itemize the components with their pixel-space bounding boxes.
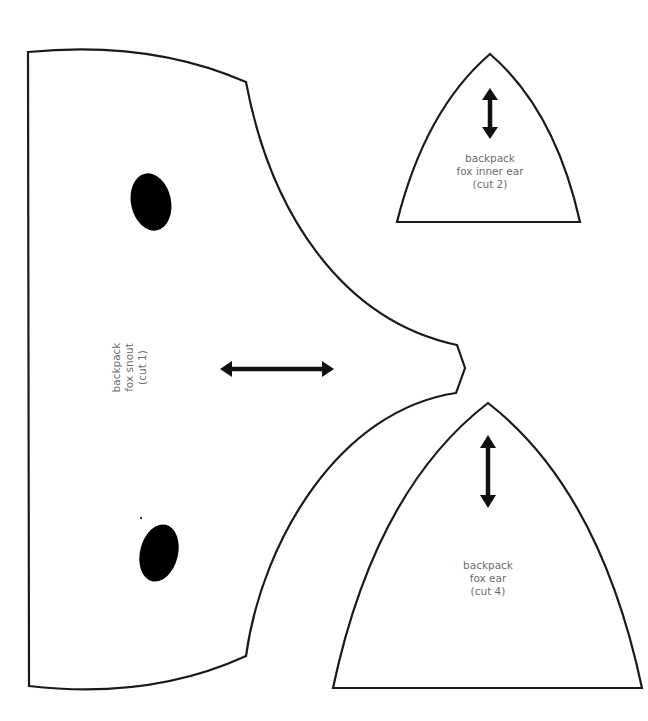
ear-label-line-2: fox ear — [440, 572, 536, 585]
snout-label-line-2: fox snout — [123, 323, 136, 413]
inner-ear-label: backpack fox inner ear (cut 2) — [440, 152, 540, 191]
ear-piece — [333, 403, 642, 688]
inner-ear-label-line-2: fox inner ear — [440, 165, 540, 178]
dot-marking — [140, 517, 142, 519]
inner-ear-outline — [397, 54, 580, 222]
inner-ear-label-line-1: backpack — [440, 152, 540, 165]
ear-label: backpack fox ear (cut 4) — [440, 559, 536, 598]
snout-label-line-3: (cut 1) — [136, 323, 149, 413]
ear-label-line-3: (cut 4) — [440, 585, 536, 598]
ear-label-line-1: backpack — [440, 559, 536, 572]
inner-ear-label-line-3: (cut 2) — [440, 178, 540, 191]
snout-label-line-1: backpack — [110, 323, 123, 413]
pattern-sheet — [0, 0, 648, 721]
inner-ear-piece — [397, 54, 580, 222]
snout-label: backpack fox snout (cut 1) — [110, 323, 149, 413]
